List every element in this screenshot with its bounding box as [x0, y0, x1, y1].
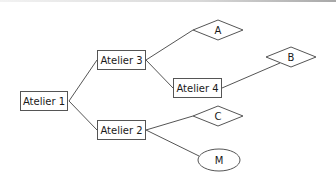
edge-atelier2-c: [146, 116, 193, 130]
node-atelier-2: Atelier 2: [98, 121, 146, 140]
node-label: Atelier 1: [23, 96, 65, 107]
node-label: Atelier 3: [100, 55, 142, 66]
node-m: M: [198, 149, 240, 171]
node-label: Atelier 4: [176, 83, 218, 94]
edge-atelier1-atelier3: [69, 60, 97, 101]
edge-atelier4-b: [222, 63, 280, 88]
node-label: M: [215, 155, 224, 166]
edge-atelier3-a: [146, 30, 193, 60]
edge-atelier2-m: [146, 130, 199, 156]
edge-atelier1-atelier2: [69, 101, 97, 130]
node-atelier-1: Atelier 1: [21, 92, 68, 111]
node-b: B: [266, 47, 316, 67]
node-label: C: [215, 111, 222, 122]
node-c: C: [193, 106, 243, 126]
node-atelier-4: Atelier 4: [174, 79, 222, 98]
tree-diagram: Atelier 1 Atelier 3 Atelier 2 Atelier 4 …: [0, 0, 336, 189]
node-label: B: [288, 52, 295, 63]
node-a: A: [193, 20, 243, 40]
node-label: Atelier 2: [100, 125, 142, 136]
node-label: A: [215, 25, 222, 36]
edge-atelier3-atelier4: [146, 60, 173, 88]
node-atelier-3: Atelier 3: [98, 51, 146, 70]
